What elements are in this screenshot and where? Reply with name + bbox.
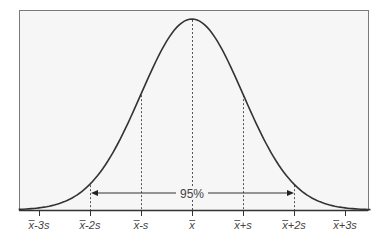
tick-label: x-3s [28, 219, 50, 231]
tick-label: x+s [233, 219, 252, 231]
tick-label: x-2s [79, 219, 101, 231]
normal-distribution-chart: 95% x-3sx-2sx-sxx+sx+2sx+3s [0, 0, 390, 239]
percent-label: 95% [180, 187, 204, 201]
tick-label: x+2s [281, 219, 306, 231]
tick-label: x [188, 219, 195, 231]
plot-frame [20, 11, 369, 211]
x-axis-labels: x-3sx-2sx-sxx+sx+2sx+3s [28, 219, 358, 231]
tick-label: x+3s [332, 219, 357, 231]
tick-label: x-s [133, 219, 149, 231]
